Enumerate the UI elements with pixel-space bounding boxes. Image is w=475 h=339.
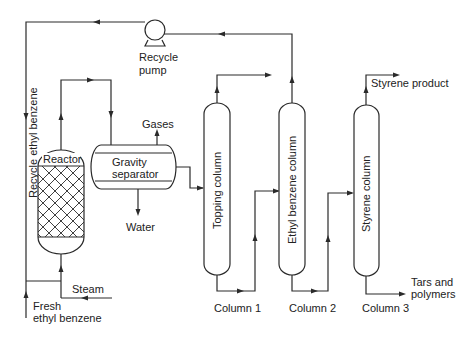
arrow-left-icon: [81, 296, 88, 301]
arrow-right-icon: [399, 292, 406, 297]
arrow-right-icon: [347, 191, 354, 196]
gravity-separator-label-1: Gravity: [112, 156, 147, 168]
topping-overhead-line: [215, 73, 273, 104]
ethyl-benzene-column-label: Ethyl benzene column: [286, 136, 298, 244]
separator-to-topping-line: [176, 167, 204, 191]
ethyl-benzene-column: Ethyl benzene column: [279, 103, 305, 275]
arrow-right-icon: [87, 78, 94, 83]
arrow-up-icon: [326, 235, 331, 242]
water-outlet: Water: [126, 189, 155, 233]
recycle-pump-label-1: Recycle: [139, 51, 178, 63]
arrow-up-icon: [215, 86, 220, 93]
arrow-up-icon: [24, 291, 29, 298]
recycle-pump-label-2: pump: [139, 64, 167, 76]
arrow-left-icon: [218, 32, 225, 37]
gravity-separator-label-2: separator: [112, 168, 159, 180]
gravity-separator: Gravity separator: [91, 145, 176, 189]
arrow-up-icon: [59, 113, 64, 120]
styrene-column-label: Styrene column: [360, 156, 372, 232]
arrow-up-icon: [290, 76, 295, 83]
column-3-label: Column 3: [362, 302, 409, 314]
steam-label: Steam: [72, 283, 104, 295]
arrow-up-icon: [155, 129, 160, 136]
fresh-ethyl-benzene-label-2: ethyl benzene: [33, 312, 102, 324]
reactor-label: Reactor: [43, 153, 82, 165]
gases-label: Gases: [142, 118, 174, 130]
arrow-down-icon: [109, 111, 114, 118]
feed-lines: Steam Fresh ethyl benzene: [26, 254, 112, 324]
topping-column: Topping column: [204, 103, 230, 275]
arrow-right-icon: [265, 73, 272, 78]
fresh-ethyl-benzene-label-1: Fresh: [33, 300, 61, 312]
tars-polymers-label-2: polymers: [411, 288, 456, 300]
gases-outlet: Gases: [142, 118, 174, 145]
arrow-up-icon: [364, 86, 369, 93]
arrow-right-icon: [197, 186, 204, 191]
arrow-right-icon: [311, 289, 318, 294]
arrow-down-icon: [136, 209, 141, 216]
tars-polymers-line: Tars and polymers: [366, 276, 456, 300]
column-1-label: Column 1: [214, 302, 261, 314]
styrene-product-label: Styrene product: [371, 77, 449, 89]
arrow-up-icon: [59, 265, 64, 272]
arrow-left-icon: [93, 20, 100, 25]
recycle-ethyl-benzene-label: Recycle ethyl benzene: [27, 87, 39, 198]
styrene-product-line: Styrene product: [364, 73, 449, 106]
arrow-right-icon: [237, 289, 244, 294]
process-flow-diagram: Recycle pump Recycle ethyl benzene: [0, 0, 475, 339]
column-2-label: Column 2: [289, 302, 336, 314]
tars-polymers-label-1: Tars and: [411, 276, 453, 288]
pump-icon: [145, 20, 165, 40]
styrene-column: Styrene column: [354, 105, 379, 276]
topping-column-label: Topping column: [211, 152, 223, 229]
recycle-pump: Recycle pump: [139, 20, 178, 76]
arrow-up-icon: [253, 234, 258, 241]
water-label: Water: [126, 221, 155, 233]
reactor-outlet-line: [59, 78, 114, 151]
